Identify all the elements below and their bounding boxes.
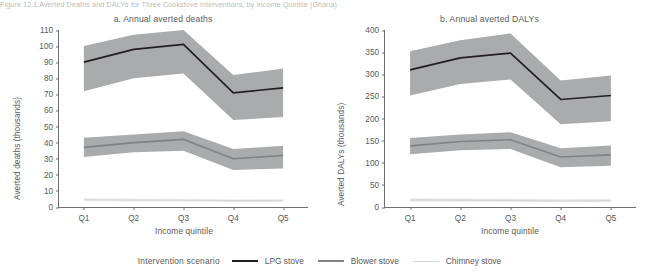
x-axis-tick: Q5: [605, 207, 616, 223]
y-axis-tick: 50: [44, 122, 59, 131]
legend-label-lpg: LPG stove: [265, 256, 304, 266]
x-axis-tick: Q3: [178, 207, 189, 223]
y-axis-tick: 30: [44, 154, 59, 163]
y-axis-tick: 70: [44, 90, 59, 99]
chart-legend: Intervention scenario LPG stove Blower s…: [0, 256, 653, 266]
x-axis-tick: Q1: [78, 207, 89, 223]
x-axis-tick: Q1: [405, 207, 416, 223]
y-axis-tick: 10: [44, 186, 59, 195]
x-axis-tick: Q3: [505, 207, 516, 223]
y-axis-tick: 50: [370, 180, 385, 189]
y-axis-tick: 250: [365, 92, 385, 101]
panel-a-plot-area: 0102030405060708090100110Q1Q2Q3Q4Q5: [58, 30, 308, 208]
panel-a-title: a. Annual averted deaths: [0, 14, 326, 24]
panel-a-x-axis-label: Income quintile: [58, 226, 310, 236]
y-axis-tick: 200: [365, 114, 385, 123]
legend-line-lpg-icon: [232, 260, 258, 262]
x-axis-tick: Q5: [278, 207, 289, 223]
legend-label-blower: Blower stove: [351, 256, 399, 266]
x-axis-tick: Q4: [228, 207, 239, 223]
x-axis-tick: Q4: [555, 207, 566, 223]
x-axis-tick: Q2: [455, 207, 466, 223]
legend-line-chimney-icon: [413, 261, 439, 262]
y-axis-tick: 90: [44, 58, 59, 67]
uncertainty-band: [84, 131, 283, 170]
uncertainty-band: [410, 34, 611, 125]
y-axis-tick: 60: [44, 106, 59, 115]
series-layer: [59, 30, 308, 207]
legend-label-chimney: Chimney stove: [446, 256, 501, 266]
legend-title: Intervention scenario: [138, 256, 220, 266]
figure-header: Figure 12.1 Averted Deaths and DALYs for…: [0, 0, 653, 9]
y-axis-tick: 40: [44, 138, 59, 147]
legend-item-blower[interactable]: Blower stove: [318, 256, 399, 266]
y-axis-tick: 100: [39, 42, 59, 51]
legend-item-chimney[interactable]: Chimney stove: [413, 256, 501, 266]
y-axis-tick: 80: [44, 74, 59, 83]
panel-b-plot-area: 050100150200250300350400Q1Q2Q3Q4Q5: [384, 30, 636, 208]
panel-b-y-axis-label: Averted DALYs (thousands): [337, 103, 346, 206]
uncertainty-band: [410, 132, 611, 167]
panel-b-x-axis-label: Income quintile: [384, 226, 636, 236]
series-layer: [385, 30, 636, 207]
x-axis-tick: Q2: [128, 207, 139, 223]
uncertainty-band: [84, 30, 283, 120]
y-axis-tick: 400: [365, 26, 385, 35]
y-axis-tick: 0: [374, 203, 385, 212]
legend-item-lpg[interactable]: LPG stove: [232, 256, 304, 266]
y-axis-tick: 100: [365, 158, 385, 167]
panel-b-title: b. Annual averted DALYs: [326, 14, 653, 24]
legend-line-blower-icon: [318, 260, 344, 262]
y-axis-tick: 300: [365, 70, 385, 79]
y-axis-tick: 110: [40, 26, 59, 35]
chart-panel-a: a. Annual averted deaths Averted deaths …: [0, 10, 326, 260]
panel-a-y-axis-label: Averted deaths (thousands): [13, 97, 22, 200]
y-axis-tick: 20: [44, 170, 59, 179]
chart-panel-b: b. Annual averted DALYs Averted DALYs (t…: [326, 10, 653, 260]
y-axis-tick: 350: [365, 48, 385, 57]
y-axis-tick: 150: [365, 136, 385, 145]
y-axis-tick: 0: [48, 203, 59, 212]
